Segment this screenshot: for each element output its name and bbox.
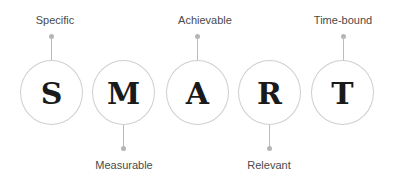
- label-specific: Specific: [5, 14, 105, 26]
- smart-goals-diagram: Specific S M Measurable Achievable A R R…: [0, 0, 401, 181]
- connector-line: [197, 37, 198, 60]
- connector-line: [269, 125, 270, 148]
- circle-m: M: [92, 60, 155, 125]
- connector-line: [343, 37, 344, 60]
- letter-s: S: [41, 79, 63, 109]
- label-relevant: Relevant: [219, 159, 319, 171]
- label-measurable: Measurable: [74, 159, 174, 171]
- connector-dot: [121, 146, 126, 151]
- circle-t: T: [311, 60, 374, 125]
- letter-m: M: [107, 79, 140, 109]
- circle-s: S: [20, 60, 83, 125]
- connector-line: [51, 37, 52, 60]
- connector-dot: [267, 146, 272, 151]
- label-time-bound: Time-bound: [293, 14, 393, 26]
- connector-line: [123, 125, 124, 148]
- letter-a: A: [186, 79, 209, 109]
- label-achievable: Achievable: [155, 14, 255, 26]
- circle-a: A: [166, 60, 229, 125]
- letter-t: T: [331, 79, 353, 109]
- circle-r: R: [238, 60, 301, 125]
- letter-r: R: [257, 79, 282, 109]
